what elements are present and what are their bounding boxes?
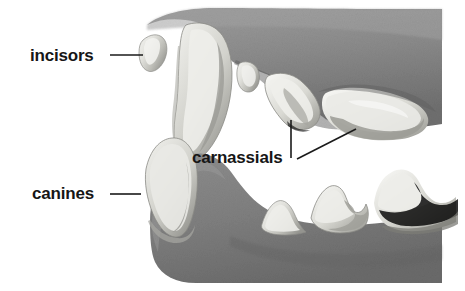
lower-molar-tooth — [374, 170, 458, 235]
label-carnassials: carnassials — [192, 148, 282, 167]
upper-incisor-tooth — [139, 35, 167, 72]
upper-premolar-small — [237, 62, 260, 92]
illustration-canvas: incisors canines carnassials — [0, 0, 465, 291]
lower-carnassial-tooth — [311, 186, 368, 233]
carnassials-leader-molar — [297, 129, 356, 159]
label-canines: canines — [32, 184, 94, 203]
jaw-dentition-figure: incisors canines carnassials — [0, 0, 465, 291]
label-incisors: incisors — [30, 46, 94, 65]
lower-premolar-tooth — [262, 201, 306, 235]
